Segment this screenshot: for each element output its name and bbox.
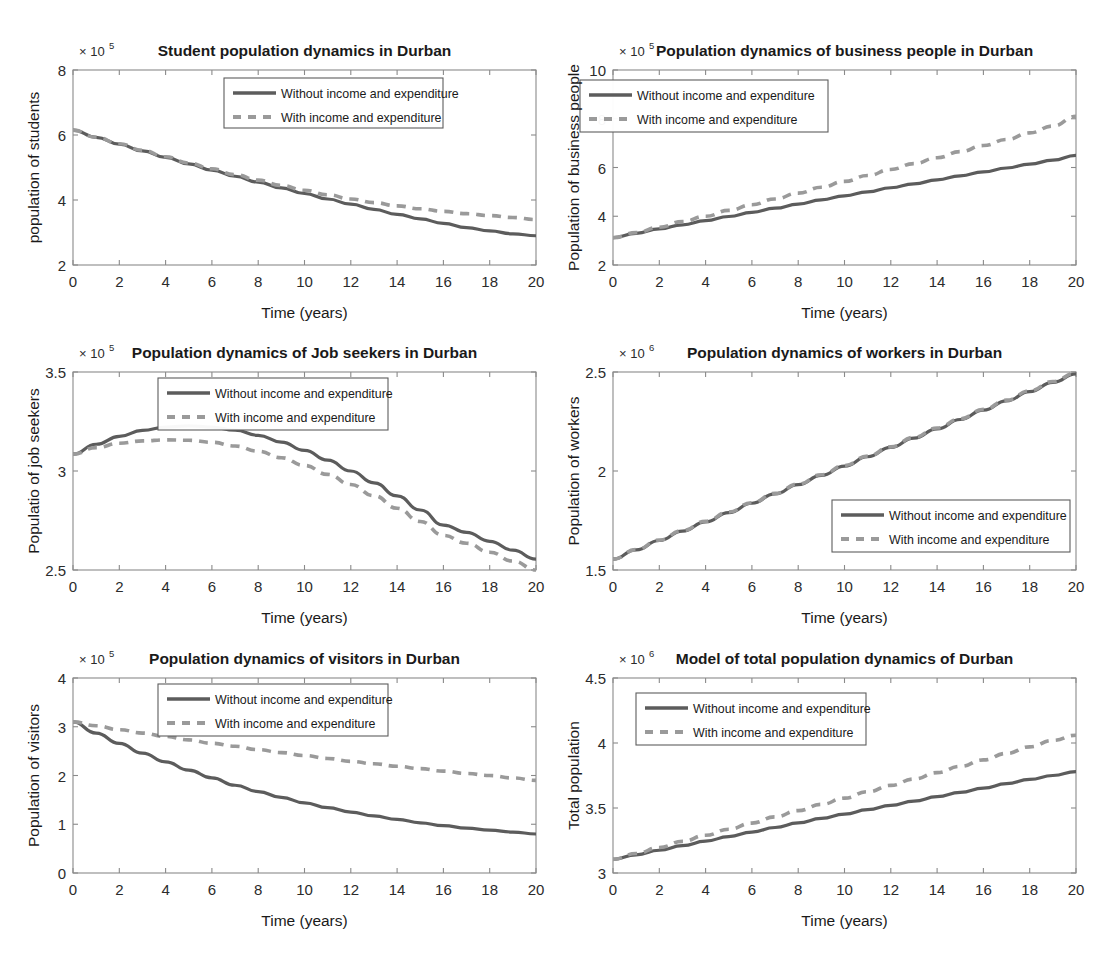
legend-label: With income and expenditure (281, 111, 442, 125)
series-line-without-income (73, 426, 536, 559)
y-axis-label: Population of business people (565, 64, 582, 271)
y-tick-label: 3 (58, 719, 66, 736)
y-tick-label: 4 (598, 735, 606, 752)
legend-label: Without income and expenditure (889, 509, 1067, 523)
x-tick-label: 20 (528, 273, 545, 290)
y-tick-label: 2.5 (585, 364, 606, 381)
series-line-with-income (73, 440, 536, 570)
legend-label: Without income and expenditure (215, 387, 393, 401)
y-axis-exponent-power: 6 (649, 648, 654, 659)
x-tick-label: 4 (701, 578, 709, 595)
x-tick-label: 14 (929, 578, 946, 595)
x-tick-label: 14 (389, 273, 406, 290)
x-tick-label: 2 (655, 578, 663, 595)
y-axis-exponent: × 10 (79, 44, 105, 59)
x-tick-label: 14 (929, 273, 946, 290)
y-axis-exponent: × 10 (619, 346, 645, 361)
figure-grid: Student population dynamics in Durban× 1… (0, 0, 1112, 966)
chart-title: Population dynamics of workers in Durban (687, 344, 1002, 361)
x-tick-label: 4 (161, 578, 169, 595)
y-tick-label: 4.5 (585, 670, 606, 687)
x-tick-label: 8 (794, 578, 802, 595)
legend-label: With income and expenditure (215, 411, 376, 425)
x-tick-label: 20 (1068, 578, 1085, 595)
chart-panel-total: Model of total population dynamics of Du… (556, 644, 1112, 966)
x-tick-label: 4 (161, 273, 169, 290)
y-tick-label: 4 (598, 208, 606, 225)
x-tick-label: 16 (435, 578, 452, 595)
y-tick-label: 3.5 (585, 800, 606, 817)
x-tick-label: 20 (528, 578, 545, 595)
x-tick-label: 18 (1021, 273, 1038, 290)
y-tick-label: 1.5 (585, 562, 606, 579)
y-tick-label: 4 (58, 192, 66, 209)
y-axis-exponent-power: 5 (109, 40, 114, 51)
x-tick-label: 18 (481, 578, 498, 595)
y-axis-exponent-power: 5 (109, 342, 114, 353)
x-axis-label: Time (years) (801, 609, 887, 626)
chart-panel-business: Population dynamics of business people i… (556, 0, 1112, 322)
legend-label: Without income and expenditure (693, 702, 871, 716)
x-tick-label: 0 (69, 881, 77, 898)
x-tick-label: 14 (389, 578, 406, 595)
x-tick-label: 18 (1021, 578, 1038, 595)
series-line-with-income (613, 735, 1076, 859)
x-tick-label: 2 (115, 578, 123, 595)
x-tick-label: 12 (882, 881, 899, 898)
y-tick-label: 3 (598, 865, 606, 882)
chart-title: Population dynamics of business people i… (656, 42, 1033, 59)
x-tick-label: 14 (929, 881, 946, 898)
chart-legend[interactable]: Without income and expenditureWith incom… (580, 80, 828, 132)
x-tick-label: 18 (1021, 881, 1038, 898)
x-tick-label: 6 (748, 273, 756, 290)
x-axis-label: Time (years) (261, 912, 347, 929)
x-tick-label: 8 (254, 578, 262, 595)
x-tick-label: 2 (655, 881, 663, 898)
x-tick-label: 12 (342, 578, 359, 595)
y-tick-label: 2 (598, 257, 606, 274)
x-tick-label: 2 (115, 881, 123, 898)
y-tick-label: 1 (58, 816, 66, 833)
y-tick-label: 8 (58, 62, 66, 79)
chart-legend[interactable]: Without income and expenditureWith incom… (158, 378, 393, 430)
chart-legend[interactable]: Without income and expenditureWith incom… (224, 78, 459, 128)
x-tick-label: 20 (1068, 273, 1085, 290)
chart-legend[interactable]: Without income and expenditureWith incom… (832, 500, 1070, 552)
chart-legend[interactable]: Without income and expenditureWith incom… (636, 693, 871, 745)
x-tick-label: 18 (481, 273, 498, 290)
y-axis-exponent: × 10 (79, 652, 105, 667)
x-tick-label: 12 (882, 578, 899, 595)
x-tick-label: 10 (836, 578, 853, 595)
x-tick-label: 0 (609, 881, 617, 898)
x-tick-label: 8 (794, 273, 802, 290)
y-tick-label: 6 (598, 160, 606, 177)
x-tick-label: 16 (975, 881, 992, 898)
x-axis-label: Time (years) (801, 304, 887, 321)
x-tick-label: 8 (254, 881, 262, 898)
chart-title: Population dynamics of visitors in Durba… (149, 650, 460, 667)
x-tick-label: 16 (435, 881, 452, 898)
x-tick-label: 10 (296, 273, 313, 290)
x-tick-label: 12 (342, 273, 359, 290)
x-tick-label: 20 (528, 881, 545, 898)
x-tick-label: 2 (655, 273, 663, 290)
series-line-with-income (613, 116, 1076, 237)
x-axis-label: Time (years) (261, 304, 347, 321)
series-line-without-income (73, 130, 536, 236)
y-tick-label: 4 (58, 670, 66, 687)
x-tick-label: 4 (161, 881, 169, 898)
x-tick-label: 16 (975, 578, 992, 595)
y-axis-exponent: × 10 (619, 44, 645, 59)
x-tick-label: 20 (1068, 881, 1085, 898)
y-tick-label: 2 (58, 768, 66, 785)
chart-panel-workers: Population dynamics of workers in Durban… (556, 322, 1112, 644)
y-tick-label: 2 (598, 463, 606, 480)
chart-legend[interactable]: Without income and expenditureWith incom… (158, 684, 393, 736)
y-tick-label: 3 (58, 463, 66, 480)
series-line-with-income (73, 130, 536, 219)
legend-label: With income and expenditure (637, 113, 798, 127)
y-axis-exponent-power: 6 (649, 342, 654, 353)
legend-label: Without income and expenditure (637, 89, 815, 103)
y-axis-label: population of students (25, 91, 42, 243)
x-tick-label: 10 (296, 578, 313, 595)
